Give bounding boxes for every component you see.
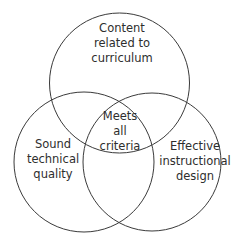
label-line: instructional (159, 154, 231, 169)
label-line: related to (91, 36, 152, 51)
label-line: Content (91, 21, 152, 36)
label-line: Meets (100, 109, 141, 124)
label-line: curriculum (91, 51, 152, 66)
label-line: quality (27, 167, 79, 182)
label-line: Sound (27, 137, 79, 152)
label-effective-instructional-design: Effective instructional design (159, 139, 231, 184)
label-line: design (159, 169, 231, 184)
label-content-related-to-curriculum: Content related to curriculum (91, 21, 152, 66)
label-line: technical (27, 152, 79, 167)
label-line: all (100, 124, 141, 139)
label-meets-all-criteria: Meets all criteria (100, 109, 141, 154)
label-line: criteria (100, 139, 141, 154)
label-sound-technical-quality: Sound technical quality (27, 137, 79, 182)
label-line: Effective (159, 139, 231, 154)
